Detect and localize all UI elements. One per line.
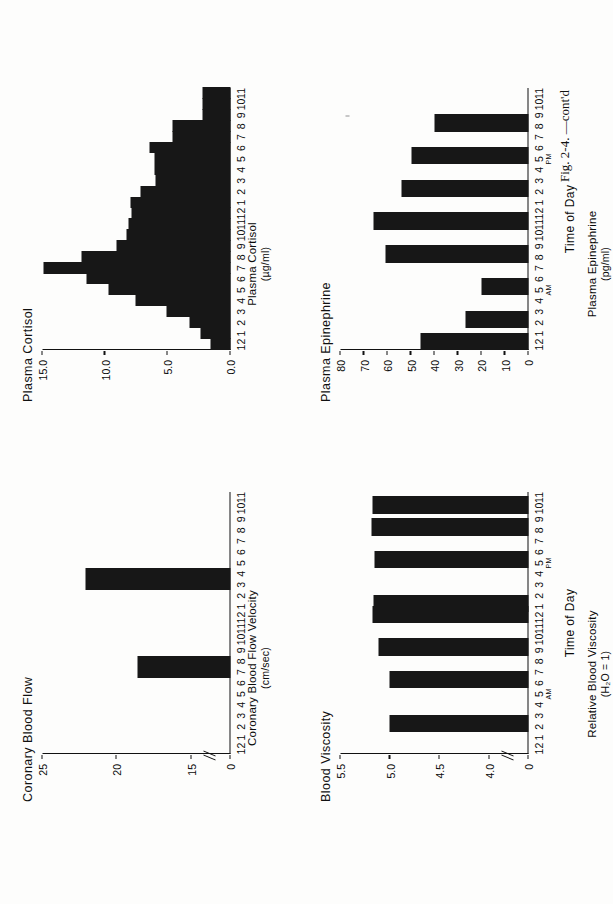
x-tick-label: 11 bbox=[234, 88, 246, 99]
axes-blood-viscosity: 5.55.04.54.00121234567891011121234567891… bbox=[340, 492, 528, 754]
y-tick-label: 0 bbox=[522, 360, 534, 366]
bar bbox=[155, 175, 230, 187]
axis-break-icon bbox=[203, 749, 215, 759]
x-tick-label: 7 bbox=[532, 265, 544, 271]
bar bbox=[371, 518, 528, 535]
bar bbox=[154, 153, 230, 165]
y-tick-mark bbox=[438, 755, 439, 759]
y-tick-mark bbox=[503, 351, 504, 355]
y-tick-label: 30 bbox=[452, 360, 464, 372]
x-tick-label: 6 bbox=[532, 680, 544, 686]
x-tick-label: 6 bbox=[532, 145, 544, 151]
bar bbox=[108, 284, 230, 296]
y-tick-label: 0.0 bbox=[224, 360, 236, 375]
x-tick-label: 9 bbox=[532, 516, 544, 522]
x-tick-label: 3 bbox=[532, 582, 544, 588]
y-tick-mark bbox=[41, 755, 42, 759]
pm-marker: PM bbox=[544, 557, 551, 568]
x-tick-label: 4 bbox=[532, 298, 544, 304]
x-tick-label: 1 bbox=[532, 200, 544, 206]
figure-plate: Coronary Blood Flow 25201501212345678910… bbox=[0, 0, 613, 904]
x-tick-label: 2 bbox=[532, 189, 544, 195]
y-tick-mark bbox=[488, 755, 489, 759]
y-tick-mark bbox=[166, 351, 167, 355]
x-tick-label: 6 bbox=[532, 276, 544, 282]
axes-coronary-blood-flow: 2520150121234567891011121234567891011 bbox=[42, 492, 230, 754]
y-tick-label: 40 bbox=[428, 360, 440, 372]
y-tick-mark bbox=[339, 755, 340, 759]
bar bbox=[131, 207, 230, 219]
x-tick-label: 3 bbox=[532, 309, 544, 315]
x-tick-label: 2 bbox=[532, 320, 544, 326]
panel-plasma-epinephrine: Plasma Epinephrine 807060504030201001212… bbox=[340, 72, 570, 412]
bar bbox=[43, 262, 230, 274]
x-tick-label: 11 bbox=[532, 623, 544, 634]
x-tick-label: 1 bbox=[532, 331, 544, 337]
y-tick-mark bbox=[103, 351, 104, 355]
x-tick-label: 5 bbox=[532, 560, 544, 566]
bar bbox=[172, 131, 230, 143]
x-tick-label: 7 bbox=[532, 669, 544, 675]
y-tick-mark bbox=[190, 755, 191, 759]
x-tick-label: 3 bbox=[532, 713, 544, 719]
panel-title: Coronary Blood Flow bbox=[20, 677, 34, 802]
y-tick-label: 25 bbox=[36, 764, 48, 776]
panel-title: Plasma Epinephrine bbox=[318, 282, 332, 402]
am-marker: AM bbox=[544, 284, 551, 295]
x-tick-label: 7 bbox=[532, 134, 544, 140]
bar bbox=[137, 656, 230, 678]
x-tick-label: 2 bbox=[532, 593, 544, 599]
x-tick-label: 1 bbox=[532, 604, 544, 610]
panel-title: Blood Viscosity bbox=[318, 711, 332, 802]
bar bbox=[420, 333, 528, 350]
bar bbox=[126, 229, 230, 241]
bar bbox=[81, 251, 230, 263]
bar bbox=[202, 109, 230, 121]
y-tick-label: 15 bbox=[185, 764, 197, 776]
bar bbox=[401, 180, 528, 197]
bar bbox=[200, 328, 230, 340]
y-tick-label: 0 bbox=[522, 764, 534, 770]
bar bbox=[389, 671, 528, 688]
panel-title: Plasma Cortisol bbox=[20, 308, 34, 402]
scanned-page: Coronary Blood Flow 25201501212345678910… bbox=[0, 0, 613, 904]
y-tick-mark bbox=[229, 351, 230, 355]
y-tick-mark bbox=[386, 351, 387, 355]
y-axis-label-viscosity: Relative Blood Viscosity (H₂O = 1) bbox=[584, 524, 611, 824]
y-axis-label-cortisol: Plasma Cortisol (µg/ml) bbox=[244, 114, 271, 414]
x-tick-label: 5 bbox=[532, 691, 544, 697]
y-tick-mark bbox=[115, 755, 116, 759]
x-tick-label: 7 bbox=[532, 538, 544, 544]
bar bbox=[128, 218, 230, 230]
y-tick-mark bbox=[480, 351, 481, 355]
x-tick-label: 9 bbox=[532, 243, 544, 249]
x-tick-label: 12 bbox=[532, 339, 544, 351]
bar bbox=[202, 98, 230, 110]
x-tick-label: 10 bbox=[532, 634, 544, 646]
y-tick-label: 20 bbox=[110, 764, 122, 776]
bar bbox=[149, 142, 230, 154]
x-tick-label: 8 bbox=[532, 527, 544, 533]
x-tick-label: 10 bbox=[234, 99, 246, 111]
x-tick-label: 8 bbox=[532, 658, 544, 664]
y-tick-label: 70 bbox=[358, 360, 370, 372]
bar bbox=[378, 638, 528, 655]
x-tick-label: 9 bbox=[532, 112, 544, 118]
bar bbox=[154, 164, 230, 176]
bar bbox=[374, 551, 528, 568]
y-tick-label: 10.0 bbox=[99, 360, 111, 380]
x-tick-label: 10 bbox=[532, 99, 544, 111]
y-tick-mark bbox=[229, 755, 230, 759]
x-tick-label: 1 bbox=[532, 735, 544, 741]
x-tick-label: 12 bbox=[532, 743, 544, 755]
x-tick-label: 3 bbox=[532, 178, 544, 184]
x-tick-label: 9 bbox=[532, 647, 544, 653]
x-tick-label: 4 bbox=[532, 571, 544, 577]
y-tick-mark bbox=[433, 351, 434, 355]
y-tick-label: 80 bbox=[334, 360, 346, 372]
figure-caption: Fig. 2-4. —cont'd bbox=[556, 90, 572, 182]
y-tick-mark bbox=[362, 351, 363, 355]
bar bbox=[172, 120, 230, 132]
bar bbox=[202, 87, 230, 99]
bar bbox=[389, 715, 528, 732]
